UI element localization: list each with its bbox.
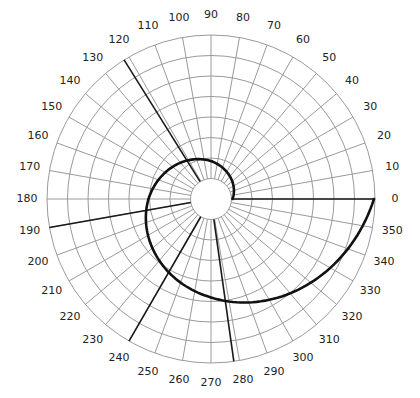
tick-label-230: 230 xyxy=(82,333,103,346)
tick-label-160: 160 xyxy=(28,129,49,142)
tick-label-310: 310 xyxy=(319,333,340,346)
tick-label-290: 290 xyxy=(263,365,284,378)
polar-chart: 0102030405060708090100110120130140150160… xyxy=(0,0,420,398)
grid-spoke xyxy=(221,217,293,341)
tick-label-190: 190 xyxy=(19,224,40,237)
grid-spoke xyxy=(129,57,201,181)
tick-label-90: 90 xyxy=(204,8,218,21)
tick-label-110: 110 xyxy=(138,19,159,32)
tick-label-280: 280 xyxy=(233,373,254,386)
tick-label-340: 340 xyxy=(373,255,394,268)
tick-label-220: 220 xyxy=(60,310,81,323)
reference-line-240 xyxy=(129,217,201,341)
grid-spoke xyxy=(215,219,240,360)
tick-label-270: 270 xyxy=(201,376,222,389)
grid-spoke xyxy=(183,37,208,178)
tick-label-300: 300 xyxy=(293,351,314,364)
tick-label-20: 20 xyxy=(377,129,391,142)
tick-label-320: 320 xyxy=(342,310,363,323)
tick-label-200: 200 xyxy=(28,255,49,268)
grid-spoke xyxy=(106,215,198,325)
tick-label-210: 210 xyxy=(41,284,62,297)
grid-spoke xyxy=(218,218,267,353)
grid-spoke xyxy=(85,94,195,186)
grid-spoke xyxy=(57,206,192,255)
grid-spoke xyxy=(221,57,293,181)
tick-label-330: 330 xyxy=(360,284,381,297)
tick-label-0: 0 xyxy=(392,192,399,205)
tick-label-40: 40 xyxy=(345,74,359,87)
tick-label-130: 130 xyxy=(82,51,103,64)
tick-label-70: 70 xyxy=(267,19,281,32)
grid-spoke xyxy=(215,37,240,178)
grid-spoke xyxy=(69,117,193,189)
grid-spoke xyxy=(218,45,267,180)
reference-line-278 xyxy=(214,219,234,361)
tick-label-240: 240 xyxy=(109,351,130,364)
grid-spoke xyxy=(229,209,353,281)
tick-label-60: 60 xyxy=(296,33,310,46)
grid-spoke xyxy=(230,206,365,255)
grid-spoke xyxy=(224,215,316,325)
tick-label-350: 350 xyxy=(382,224,403,237)
tick-label-140: 140 xyxy=(60,74,81,87)
grid-spoke xyxy=(229,117,353,189)
tick-label-100: 100 xyxy=(169,11,190,24)
reference-line-190 xyxy=(49,203,190,228)
tick-label-170: 170 xyxy=(19,160,40,173)
tick-label-50: 50 xyxy=(322,51,336,64)
grid-spoke xyxy=(227,212,337,304)
tick-label-120: 120 xyxy=(109,33,130,46)
tick-label-260: 260 xyxy=(169,373,190,386)
grid-spoke xyxy=(49,171,190,196)
tick-label-30: 30 xyxy=(363,100,377,113)
tick-label-10: 10 xyxy=(385,160,399,173)
grid-spoke xyxy=(85,212,195,304)
grid-spoke xyxy=(230,143,365,192)
grid-spoke xyxy=(155,218,204,353)
grid-spoke xyxy=(231,203,372,228)
tick-label-180: 180 xyxy=(17,192,38,205)
tick-label-250: 250 xyxy=(138,365,159,378)
tick-label-80: 80 xyxy=(236,11,250,24)
grid-spoke xyxy=(227,94,337,186)
grid-spoke xyxy=(106,73,198,183)
grid-spoke xyxy=(224,73,316,183)
inner-hole-circle xyxy=(191,179,232,220)
tick-label-150: 150 xyxy=(41,100,62,113)
grid-spoke xyxy=(231,171,372,196)
